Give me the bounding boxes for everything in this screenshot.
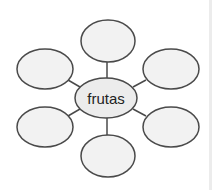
node-upper-left xyxy=(17,49,73,89)
page-edge xyxy=(209,0,212,190)
node-upper-right xyxy=(143,49,199,89)
node-top xyxy=(81,20,135,62)
node-lower-left xyxy=(17,107,73,147)
center-node-label: frutas xyxy=(75,78,137,118)
node-lower-right xyxy=(143,107,199,147)
node-bottom xyxy=(81,135,135,177)
